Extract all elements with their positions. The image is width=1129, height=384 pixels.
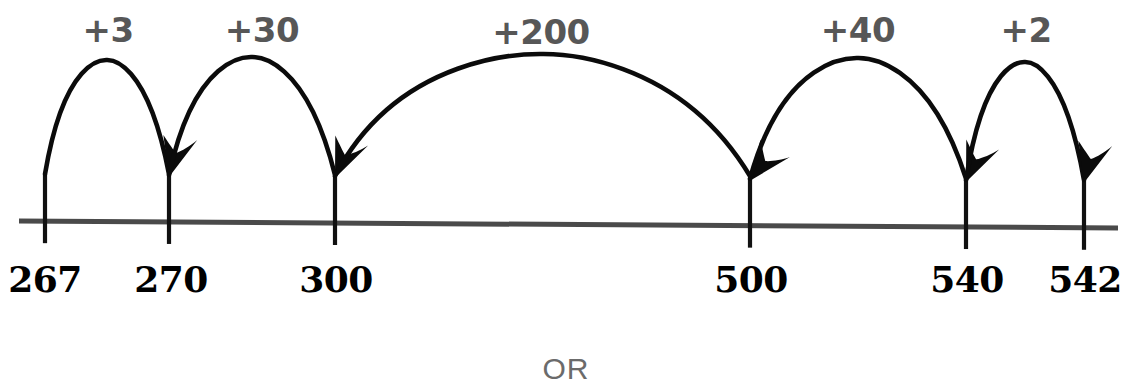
jump-label-plus30: +30: [225, 10, 299, 50]
jump-label-plus3: +3: [82, 10, 133, 50]
tick-label-542: 542: [1048, 258, 1122, 300]
jump-arc-plus40: [750, 58, 999, 189]
jump-arc-plus2: [966, 62, 1112, 187]
jump-arcs: [45, 54, 1112, 191]
jump-label-plus200: +200: [492, 12, 589, 52]
jump-label-plus40: +40: [821, 10, 895, 50]
jump-arc-plus3: [45, 60, 197, 182]
tick-label-300: 300: [299, 258, 373, 300]
or-separator-text: OR: [543, 352, 590, 384]
tick-label-270: 270: [134, 258, 208, 300]
number-line-axis: [19, 221, 1118, 228]
jump-arc-plus200: [335, 54, 790, 191]
jump-label-plus2: +2: [1000, 10, 1051, 50]
number-line-diagram: [0, 0, 1129, 384]
tick-label-267: 267: [8, 258, 82, 300]
arc-curve: [335, 54, 750, 176]
arc-curve: [169, 57, 335, 175]
tick-marks: [45, 174, 1084, 250]
tick-label-500: 500: [714, 258, 788, 300]
arc-curve: [45, 60, 169, 174]
tick-label-540: 540: [930, 258, 1004, 300]
axis-line: [19, 221, 1118, 228]
